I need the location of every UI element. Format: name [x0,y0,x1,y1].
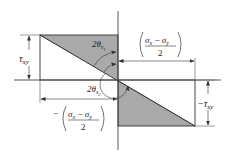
tau-xy-label: τxy [19,53,30,66]
bottom-fraction-label: − σx − σy 2 [53,106,104,132]
stress-diagram: τxy −τxy σx − σy 2 − σx − σy 2 2θs1 [0,0,234,160]
svg-text:σx − σy: σx − σy [68,109,92,120]
neg-tau-xy-label: −τxy [198,98,214,111]
svg-text:σx − σy: σx − σy [145,35,169,46]
theta-s2-label: 2θs2 [87,84,101,97]
svg-text:2: 2 [81,122,86,132]
svg-text:2: 2 [158,48,163,58]
svg-text:−: − [53,108,58,118]
top-fraction-label: σx − σy 2 [140,32,181,58]
